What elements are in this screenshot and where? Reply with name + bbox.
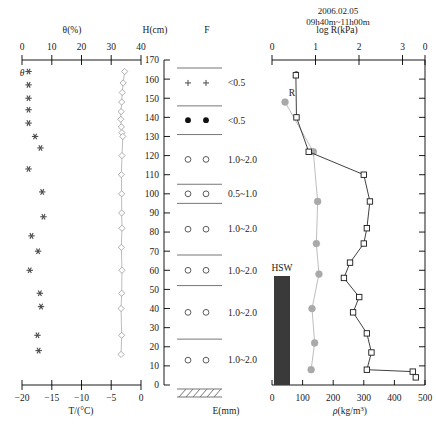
height-tick-label: 150	[145, 94, 160, 104]
data-point-diamond	[119, 191, 125, 197]
height-tick-label: 30	[150, 323, 160, 333]
data-point-diamond	[118, 305, 124, 311]
theta-tick-label: 40	[136, 42, 146, 52]
height-tick-label: 140	[145, 113, 160, 123]
height-tick-label: 50	[150, 285, 160, 295]
data-point-asterisk	[37, 290, 43, 296]
data-point-diamond	[118, 351, 124, 357]
grain-symbol-dot	[203, 117, 209, 123]
temperature-tick-label: −15	[44, 393, 59, 403]
grain-symbol-circle	[185, 267, 191, 273]
data-point-asterisk	[32, 134, 38, 140]
logR-tick-label: 1	[313, 42, 318, 52]
data-point-asterisk	[35, 248, 41, 254]
height-tick-label: 60	[150, 266, 160, 276]
logR-tick-label: 0	[270, 42, 275, 52]
height-tick-label: 160	[145, 75, 160, 85]
theta-axis-label: θ(%)	[63, 25, 82, 36]
data-point-diamond	[118, 124, 124, 130]
grain-symbol-plus	[203, 80, 209, 86]
figure-title-date: 2006.02.05	[318, 6, 359, 16]
grain-size-label: 1.0~2.0	[228, 224, 257, 234]
grain-symbol-circle	[185, 357, 191, 363]
height-tick-label: 100	[145, 189, 160, 199]
grain-size-label: 1.0~2.0	[228, 266, 257, 276]
grain-size-label: <0.5	[228, 116, 245, 126]
data-point-square	[364, 226, 369, 231]
grain-size-label: 1.0~2.0	[228, 355, 257, 365]
theta-tick-label: 10	[47, 42, 57, 52]
data-point-square	[293, 73, 298, 78]
density-tick-label: 500	[418, 393, 433, 403]
data-point-asterisk	[25, 95, 31, 101]
density-tick-label: 0	[270, 393, 275, 403]
data-point-diamond	[119, 152, 125, 158]
data-point-diamond	[118, 172, 124, 178]
data-point-asterisk	[25, 82, 31, 88]
logR-tick-label: 2	[357, 42, 362, 52]
grain-symbol-circle	[185, 157, 191, 163]
height-tick-label: 20	[150, 342, 160, 352]
grain-size-axis-label: E(mm)	[213, 406, 240, 417]
data-point-diamond	[119, 332, 125, 338]
data-point-square	[347, 260, 352, 265]
data-point-square	[364, 367, 369, 372]
data-point-asterisk	[34, 333, 40, 339]
data-point-diamond	[122, 68, 128, 74]
data-point-square	[413, 375, 418, 380]
data-point-asterisk	[25, 120, 31, 126]
data-point-diamond	[120, 80, 126, 86]
height-tick-label: 80	[150, 227, 160, 237]
data-point-square	[357, 294, 362, 299]
grain-symbol-circle	[203, 309, 209, 315]
data-point-diamond	[119, 99, 125, 105]
grain-symbol-dot	[185, 117, 191, 123]
density-series	[293, 73, 418, 380]
grain-symbol-circle	[185, 226, 191, 232]
height-tick-label: 10	[150, 361, 160, 371]
data-point-square	[369, 350, 374, 355]
hsw-bar	[274, 276, 290, 385]
height-axis-label: H(cm)	[143, 25, 168, 36]
grain-symbol-circle	[203, 157, 209, 163]
data-point-diamond	[118, 116, 124, 122]
stratigraphy-panel: F <0.5<0.51.0~2.00.5~1.01.0~2.01.0~2.01.…	[177, 25, 257, 417]
density-tick-label: 100	[295, 393, 310, 403]
data-point-diamond	[119, 210, 125, 216]
data-point-circle	[316, 271, 323, 278]
data-point-diamond	[119, 267, 125, 273]
theta-tick-label: 30	[106, 42, 116, 52]
temperature-axis-label: T/(°C)	[69, 406, 94, 417]
theta-series-label: θ	[20, 68, 25, 78]
theta-tick-label: 20	[77, 42, 87, 52]
data-point-circle	[311, 340, 318, 347]
data-point-diamond	[118, 109, 124, 115]
data-point-asterisk	[25, 69, 31, 75]
grain-symbol-circle	[185, 191, 191, 197]
height-tick-label: 40	[150, 304, 160, 314]
data-point-asterisk	[39, 189, 45, 195]
grain-symbol-circle	[203, 357, 209, 363]
grain-size-label: 1.0~2.0	[228, 155, 257, 165]
data-point-circle	[282, 99, 289, 106]
figure-canvas: 2006.02.05 09h40m~11h00m θ(%) 0 10 20 30…	[0, 0, 436, 427]
height-axis: H(cm) 1701601501401301201101009080706050…	[143, 25, 170, 390]
left-panel: θ(%) 0 10 20 30 40 θ −20 −15 −10 −5 0 T/…	[15, 25, 146, 417]
temperature-tick-label: −20	[15, 393, 30, 403]
theta-tick-label: 0	[20, 42, 25, 52]
density-origin-tick-label: 0	[423, 42, 428, 52]
data-point-circle	[314, 198, 321, 205]
data-point-square	[294, 115, 299, 120]
data-point-asterisk	[40, 214, 46, 220]
ground-hatch-icon	[177, 389, 222, 397]
data-point-circle	[308, 366, 315, 373]
data-point-diamond	[119, 290, 125, 296]
data-point-square	[367, 199, 372, 204]
height-tick-label: 0	[154, 380, 159, 390]
data-point-diamond	[119, 89, 125, 95]
data-point-square	[364, 331, 369, 336]
grain-symbol-circle	[203, 267, 209, 273]
snow-profile-figure: 2006.02.05 09h40m~11h00m θ(%) 0 10 20 30…	[0, 0, 436, 427]
theta-series	[118, 68, 128, 357]
grain-symbol-plus	[185, 80, 191, 86]
